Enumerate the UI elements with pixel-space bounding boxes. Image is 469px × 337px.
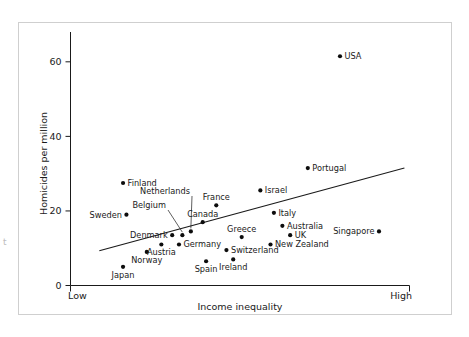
y-tick-label-0: 0 [55,280,61,291]
data-point-canada [201,220,205,224]
point-label-germany: Germany [183,239,221,249]
y-tick-label-40: 40 [49,131,61,142]
y-tick-label-60: 60 [49,56,61,67]
x-axis-high-label: High [390,290,412,301]
scatter-plot: 0204060 USAPortugalFinlandIsraelFranceIt… [0,0,469,337]
point-label-italy: Italy [278,208,296,218]
data-point-labels: USAPortugalFinlandIsraelFranceItalySwede… [90,51,375,280]
y-axis-title: Homicides per million [38,112,49,215]
data-point-belgium [180,233,184,237]
data-point-australia [280,224,284,228]
data-point-portugal [306,166,310,170]
data-point-austria [159,242,163,246]
x-axis-title: Income inequality [198,301,283,312]
point-label-usa: USA [345,51,362,61]
data-point-sweden [124,213,128,217]
leader-line-belgium [168,210,182,232]
data-point-usa [338,54,342,58]
point-label-spain: Spain [195,264,218,274]
point-label-portugal: Portugal [312,163,346,173]
data-point-switzerland [224,248,228,252]
point-label-singapore: Singapore [333,226,374,236]
data-point-uk [288,233,292,237]
point-label-switzerland: Switzerland [231,245,279,255]
point-label-norway: Norway [131,255,162,265]
point-label-denmark: Denmark [130,230,168,240]
point-label-netherlands: Netherlands [140,186,190,196]
point-label-japan: Japan [111,270,135,280]
point-label-israel: Israel [265,185,287,195]
point-label-france: France [203,192,230,202]
point-label-greece: Greece [227,224,256,234]
data-point-spain [204,259,208,263]
data-point-singapore [377,229,381,233]
y-tick-label-20: 20 [49,205,61,216]
data-point-france [214,203,218,207]
data-point-netherlands [189,229,193,233]
point-label-ireland: Ireland [219,262,247,272]
point-label-sweden: Sweden [90,210,122,220]
x-axis-low-label: Low [68,290,87,301]
data-point-italy [272,211,276,215]
point-label-new-zealand: New Zealand [275,239,329,249]
y-axis-ticks [66,62,71,286]
y-axis-tick-labels: 0204060 [49,56,61,291]
data-point-finland [121,181,125,185]
data-point-ireland [231,257,235,261]
data-point-denmark [170,233,174,237]
data-point-germany [177,242,181,246]
point-label-belgium: Belgium [132,200,166,210]
data-point-greece [240,235,244,239]
data-point-israel [258,188,262,192]
point-label-canada: Canada [187,209,218,219]
figure-container: t 0204060 USAPortugalFinlandIsraelFrance… [0,0,469,337]
data-point-japan [121,265,125,269]
